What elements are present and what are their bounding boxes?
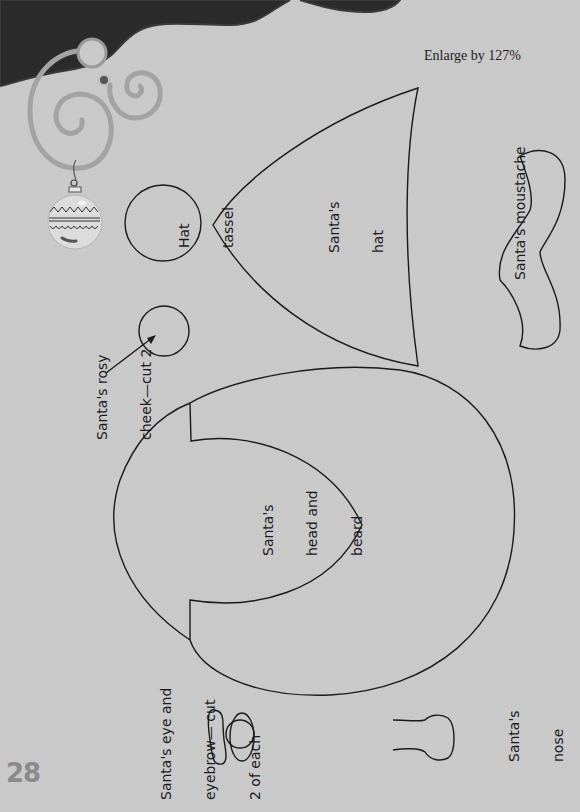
dark-wave-shape-right [300,0,400,12]
christmas-bauble-icon [48,160,102,249]
hat-label-line1: Santa's [327,201,342,253]
moustache-label-line1: Santa's moustache [513,146,528,280]
cheek-label-line2: cheek—cut 2 [139,349,154,440]
arrow-head-icon [147,335,156,344]
hat-tassel-label: Hat tassel [148,207,266,248]
hat-label: Santa's hat [298,201,416,253]
eye-eyebrow-label: Santa's eye and eyebrow— cut 2 of each [130,688,292,800]
nose-outline [393,715,454,760]
swirl-dot-icon [99,75,109,85]
head-beard-label-line2: head and [305,490,320,556]
nose-label-line2: nose [551,710,566,762]
hat-tassel-label-line1: Hat [177,207,192,248]
nose-label-line1: Santa's [507,710,522,762]
pattern-page: Enlarge by 127% Hat tassel Santa's hat S… [0,0,580,812]
eye-eyebrow-label-line1: Santa's eye and [159,688,174,800]
cheek-label-line1: Santa's rosy [95,349,110,440]
enlarge-instruction: Enlarge by 127% [424,48,521,64]
eye-eyebrow-label-line3: 2 of each [248,688,263,800]
swirl-ring-icon [78,39,106,67]
eye-eyebrow-label-line2: eyebrow— cut [203,688,218,800]
head-beard-label: Santa's head and beard [232,490,394,556]
cheek-label: Santa's rosy cheek—cut 2 [66,349,184,440]
head-beard-label-line3: beard [350,490,365,556]
page-number: 28 [6,758,40,788]
moustache-label: Santa's moustache [484,146,557,280]
head-beard-label-line1: Santa's [261,490,276,556]
nose-label: Santa's nose [478,710,580,762]
hat-label-line2: hat [371,201,386,253]
hat-tassel-label-line2: tassel [221,207,236,248]
